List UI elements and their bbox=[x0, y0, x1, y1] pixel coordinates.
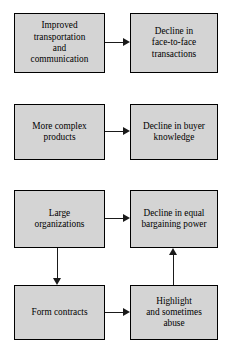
connector-line-row2 bbox=[105, 131, 123, 132]
node-decline-buyer-knowledge[interactable]: Decline in buyer knowledge bbox=[130, 104, 218, 160]
connector-line-row1 bbox=[105, 42, 123, 43]
node-decline-face-to-face[interactable]: Decline in face-to-face transactions bbox=[130, 13, 218, 73]
node-label: Highlight and sometimes abuse bbox=[134, 296, 214, 330]
connector-line-large-orgs-to-form-contracts bbox=[57, 248, 58, 279]
connector-line-row3 bbox=[105, 218, 123, 219]
arrow-up-icon bbox=[169, 248, 177, 255]
node-label: Form contracts bbox=[18, 307, 101, 318]
node-large-organizations[interactable]: Large organizations bbox=[14, 190, 105, 248]
node-form-contracts[interactable]: Form contracts bbox=[14, 285, 105, 340]
arrow-down-icon bbox=[53, 278, 61, 285]
node-label: Decline in equal bargaining power bbox=[134, 208, 214, 231]
arrow-right-icon-row1 bbox=[123, 38, 130, 46]
node-more-complex-products[interactable]: More complex products bbox=[14, 104, 105, 160]
node-improved-transportation[interactable]: Improved transportation and communicatio… bbox=[14, 13, 105, 73]
arrow-right-icon-row3 bbox=[123, 214, 130, 222]
connector-line-row4 bbox=[105, 312, 123, 313]
connector-line-highlight-to-bargaining-power bbox=[173, 255, 174, 285]
flowchart-diagram: Improved transportation and communicatio… bbox=[0, 0, 229, 348]
arrow-right-icon-row4 bbox=[123, 308, 130, 316]
node-decline-bargaining-power[interactable]: Decline in equal bargaining power bbox=[130, 190, 218, 248]
arrow-right-icon-row2 bbox=[123, 127, 130, 135]
node-label: Large organizations bbox=[18, 208, 101, 231]
node-label: Decline in buyer knowledge bbox=[134, 121, 214, 144]
node-label: Improved transportation and communicatio… bbox=[18, 20, 101, 65]
node-label: Decline in face-to-face transactions bbox=[134, 26, 214, 60]
node-highlight-abuse[interactable]: Highlight and sometimes abuse bbox=[130, 285, 218, 340]
node-label: More complex products bbox=[18, 121, 101, 144]
